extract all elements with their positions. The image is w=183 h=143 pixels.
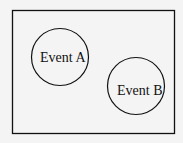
- event-a-label: Event A: [40, 50, 86, 65]
- sample-space-rectangle: [13, 11, 175, 134]
- event-b-label: Event B: [117, 83, 163, 98]
- venn-diagram: Event A Event B: [0, 0, 183, 143]
